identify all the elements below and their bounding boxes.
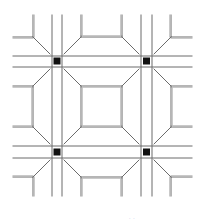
foundation-lines	[13, 15, 192, 196]
footing-slope	[122, 160, 139, 177]
footing-slope	[122, 127, 139, 144]
footing-slope	[122, 37, 139, 54]
column-square-icon	[143, 58, 150, 65]
footing-slope	[33, 69, 50, 86]
column-square-icon	[54, 149, 61, 156]
footing-slope	[64, 160, 81, 177]
footing-slope	[33, 37, 50, 54]
footing-slope	[154, 37, 171, 54]
footing-slope	[64, 127, 81, 144]
footing-slope	[154, 160, 171, 177]
figure-caption: 图 2.21井格基础	[0, 200, 201, 216]
footing-slope	[154, 69, 171, 86]
caption-title: 井格基础	[106, 218, 148, 219]
footing-slope	[64, 37, 81, 54]
footing-slope	[122, 69, 139, 86]
footing-slope	[33, 127, 50, 144]
caption-number: 图 2.21	[60, 218, 97, 219]
footing-slope	[154, 127, 171, 144]
grid-foundation-diagram	[0, 0, 201, 200]
footing-slope	[33, 160, 50, 177]
column-square-icon	[143, 149, 150, 156]
column-square-icon	[54, 58, 61, 65]
footing-slope	[64, 69, 81, 86]
